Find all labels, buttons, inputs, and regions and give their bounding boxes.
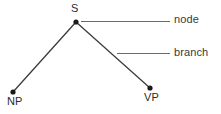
node-label-vp: VP [144,92,159,103]
callout-label-branch: branch [174,47,208,58]
callout-label-node: node [174,14,199,25]
node-dot-np [10,89,15,94]
node-label-np: NP [7,96,22,107]
syntax-tree-diagram: S NP VP node branch [0,0,221,114]
node-label-s: S [71,3,78,14]
branch-s-vp [76,22,150,88]
branch-s-np [13,22,76,92]
node-dot-s [73,19,78,24]
node-dot-vp [147,85,152,90]
